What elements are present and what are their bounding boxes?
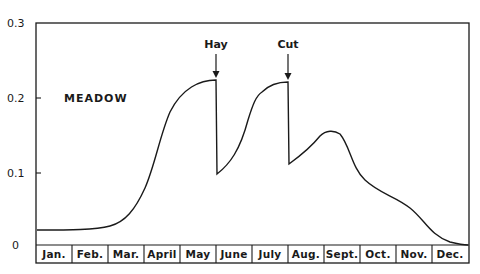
y-tick-0-3: 0.3 — [7, 17, 25, 30]
hay-arrow-down-icon — [213, 71, 220, 78]
hay-label: Hay — [204, 38, 227, 51]
hay-annotation: Hay — [204, 38, 227, 78]
y-tick-0-1: 0.1 — [7, 167, 25, 180]
month-label-feb: Feb. — [77, 248, 104, 260]
month-label-nov: Nov. — [400, 248, 427, 260]
meadow-line-chart: Jan. Feb. Mar. April May June July Aug. … — [0, 0, 480, 274]
y-tick-0-2: 0.2 — [7, 92, 25, 105]
cut-annotation: Cut — [277, 38, 298, 80]
month-label-aug: Aug. — [292, 248, 320, 260]
month-label-jul: July — [257, 248, 281, 260]
month-label-sep: Sept. — [326, 248, 359, 260]
cut-arrow-down-icon — [285, 73, 292, 80]
month-label-jun: June — [219, 248, 247, 260]
month-label-mar: Mar. — [113, 248, 139, 260]
month-label-oct: Oct. — [365, 248, 390, 260]
month-label-may: May — [186, 248, 211, 260]
y-axis — [36, 98, 41, 173]
month-label-jan: Jan. — [41, 248, 66, 260]
month-label-dec: Dec. — [436, 248, 463, 260]
month-label-apr: April — [147, 248, 177, 260]
cut-label: Cut — [277, 38, 298, 51]
plot-frame — [36, 23, 469, 263]
y-tick-0: 0 — [12, 239, 19, 252]
series-label-meadow: MEADOW — [64, 92, 128, 105]
